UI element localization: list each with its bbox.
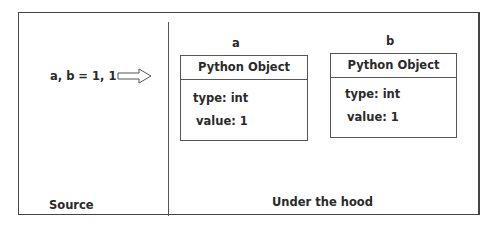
object-a-title: Python Object	[181, 56, 307, 80]
source-code: a, b = 1, 1	[50, 69, 116, 83]
object-a-type: type: int	[193, 91, 248, 105]
section-divider	[168, 22, 169, 216]
object-b-type: type: int	[345, 87, 400, 101]
object-b-title: Python Object	[331, 54, 456, 78]
object-b-value: value: 1	[347, 110, 399, 124]
under-the-hood-label: Under the hood	[272, 195, 373, 209]
object-b-name: b	[386, 34, 394, 48]
python-object-a: Python Object type: int value: 1	[180, 55, 308, 141]
object-a-name: a	[232, 36, 240, 50]
object-a-value: value: 1	[196, 114, 248, 128]
right-arrow-icon	[117, 68, 153, 84]
source-label: Source	[49, 198, 94, 212]
python-object-b: Python Object type: int value: 1	[330, 53, 457, 138]
